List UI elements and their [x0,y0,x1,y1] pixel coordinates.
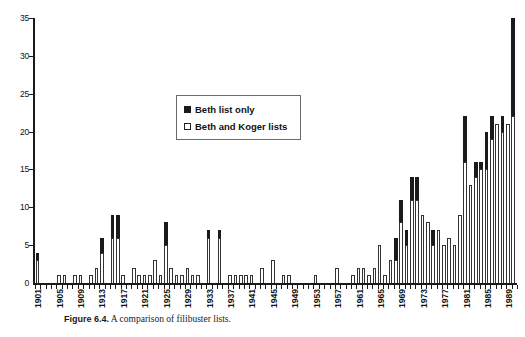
figure-container: 05101520253035 1901190519091913191719211… [0,0,525,337]
bar-segment-beth-and-koger-lists [479,169,483,283]
bar-segment-beth-and-koger-lists [121,275,125,283]
bar-segment-beth-list-only [501,116,505,131]
bar-stack [447,238,451,283]
bar-segment-beth-and-koger-lists [314,275,318,283]
bar-stack [426,222,430,283]
bar-segment-beth-and-koger-lists [399,222,403,283]
x-axis-tick-label: 1977 [440,289,450,308]
bar-stack [95,268,99,283]
bar-stack [250,275,254,283]
bar-segment-beth-and-koger-lists [458,215,462,283]
bar-series-group [35,18,517,283]
bar-segment-beth-and-koger-lists [282,275,286,283]
x-axis-tick-label: 1973 [419,289,429,308]
bar-segment-beth-and-koger-lists [469,185,473,283]
bar-segment-beth-and-koger-lists [137,275,141,283]
bar-segment-beth-and-koger-lists [453,245,457,283]
bar-stack [169,268,173,283]
bar-stack [421,215,425,283]
bar-stack [506,124,510,283]
bar-segment-beth-and-koger-lists [357,268,361,283]
bar-stack [79,275,83,283]
bar-segment-beth-list-only [485,132,489,170]
bar-segment-beth-and-koger-lists [57,275,61,283]
legend-item-beth-and-koger-lists: Beth and Koger lists [184,118,300,135]
bar-segment-beth-and-koger-lists [36,260,40,283]
x-axis-tick-label: 1901 [33,289,43,308]
bar-segment-beth-list-only [463,116,467,161]
bar-segment-beth-and-koger-lists [159,275,163,283]
bar-segment-beth-and-koger-lists [415,200,419,283]
bar-segment-beth-and-koger-lists [180,275,184,283]
bar-segment-beth-and-koger-lists [218,238,222,283]
bar-stack [175,275,179,283]
bar-stack [132,268,136,283]
bar-stack [495,124,499,283]
bar-segment-beth-and-koger-lists [111,238,115,283]
bar-stack [121,275,125,283]
bar-segment-beth-list-only [207,230,211,238]
bar-segment-beth-list-only [415,177,419,200]
bar-segment-beth-and-koger-lists [437,230,441,283]
x-axis-tick-label: 1913 [97,289,107,308]
bar-stack [271,260,275,283]
x-axis-tick-label: 1969 [397,289,407,308]
bar-segment-beth-and-koger-lists [79,275,83,283]
x-axis-tick-label: 1917 [119,289,129,308]
bar-segment-beth-and-koger-lists [506,124,510,283]
bar-stack [196,275,200,283]
x-axis-tick-label: 1905 [55,289,65,308]
bar-stack [431,230,435,283]
bar-segment-beth-and-koger-lists [490,139,494,283]
bar-stack [335,268,339,283]
y-axis-tick-label: 10 [20,203,29,211]
bar-segment-beth-and-koger-lists [383,275,387,283]
bar-segment-beth-and-koger-lists [501,132,505,283]
bar-stack [383,275,387,283]
legend-item-beth-list-only: Beth list only [184,101,300,118]
x-axis-tick-label: 1929 [183,289,193,308]
bar-stack [180,275,184,283]
bar-stack [367,275,371,283]
bar-segment-beth-and-koger-lists [228,275,232,283]
bar-segment-beth-and-koger-lists [73,275,77,283]
bar-stack [474,162,478,283]
bar-stack [137,275,141,283]
x-axis-tick-label: 1909 [76,289,86,308]
bar-stack [463,116,467,283]
bar-stack [116,215,120,283]
legend-label-beth-list-only: Beth list only [195,105,255,115]
bar-segment-beth-list-only [394,238,398,261]
y-axis-tick-mark [29,18,33,19]
bar-segment-beth-and-koger-lists [442,245,446,283]
bar-stack [373,268,377,283]
bar-stack [282,275,286,283]
legend-swatch-open-square-icon [184,123,191,130]
bar-stack [410,177,414,283]
bar-stack [239,275,243,283]
y-axis-tick-mark [29,245,33,246]
y-axis-tick-label: 25 [20,90,29,98]
figure-caption-text: A comparison of filibuster lists. [109,314,231,324]
bar-stack [186,268,190,283]
bar-segment-beth-and-koger-lists [474,177,478,283]
bar-segment-beth-and-koger-lists [148,275,152,283]
bar-segment-beth-and-koger-lists [389,260,393,283]
bar-stack [314,275,318,283]
bar-segment-beth-and-koger-lists [169,268,173,283]
x-axis-tick-label: 1937 [226,289,236,308]
bar-segment-beth-and-koger-lists [431,245,435,283]
x-axis-tick-label: 1989 [504,289,514,308]
x-axis-tick-label: 1965 [376,289,386,308]
x-axis-tick-mark [517,285,518,289]
x-axis-tick-label: 1953 [312,289,322,308]
x-axis-tick-label: 1941 [247,289,257,308]
bar-segment-beth-and-koger-lists [260,268,264,283]
x-axis-tick-label: 1949 [290,289,300,308]
bar-stack [207,230,211,283]
bar-stack [399,200,403,283]
bar-stack [490,116,494,283]
bar-stack [415,177,419,283]
bar-segment-beth-and-koger-lists [116,238,120,283]
bar-segment-beth-and-koger-lists [511,116,515,283]
